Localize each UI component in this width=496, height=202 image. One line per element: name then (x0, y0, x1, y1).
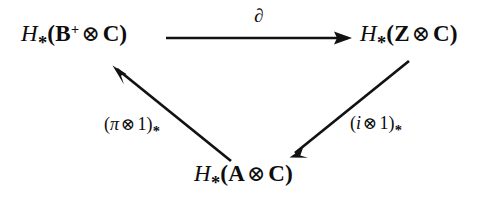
node-top-left-functor: H (21, 21, 38, 46)
node-bottom-first-factor: A (228, 161, 245, 186)
tensor-icon: ⊗ (410, 22, 434, 46)
tensor-icon: ⊗ (361, 114, 379, 133)
label-rparen: ) (146, 114, 152, 134)
node-bottom-lparen: ( (220, 160, 228, 186)
edge-label-boundary-map: ∂ (254, 6, 263, 25)
tensor-icon: ⊗ (79, 22, 103, 46)
node-top-left-lparen: ( (47, 20, 55, 46)
commutative-diagram: H*(B+⊗C) H*(Z⊗C) H*(A⊗C) ∂ (π⊗1)* (i⊗1)* (0, 0, 496, 202)
node-bottom-second-factor: C (268, 161, 285, 186)
node-top-left-rparen: ) (119, 20, 127, 46)
label-star-subscript: * (153, 123, 160, 139)
node-top-right-first-factor: Z (394, 21, 409, 46)
node-top-right-second-factor: C (433, 21, 450, 46)
node-top-right-lparen: ( (386, 20, 394, 46)
node-top-left-star-subscript: * (38, 33, 47, 53)
arrow-boundary-map (166, 32, 352, 45)
node-top-left: H*(B+⊗C) (21, 22, 127, 53)
node-bottom: H*(A⊗C) (194, 162, 293, 192)
arrow-i-tensor-1 (290, 61, 410, 158)
node-top-right-functor: H (360, 21, 377, 46)
node-top-right-star-subscript: * (377, 33, 386, 53)
edge-label-pi-tensor-1: (π⊗1)* (104, 115, 160, 138)
label-rparen: ) (388, 113, 394, 133)
edge-label-i-tensor-1: (i⊗1)* (350, 114, 402, 137)
label-star-subscript: * (395, 122, 402, 138)
node-top-right-rparen: ) (450, 20, 458, 46)
tensor-icon: ⊗ (119, 115, 137, 134)
node-bottom-functor: H (194, 161, 211, 186)
pi-symbol: π (110, 114, 119, 134)
node-bottom-rparen: ) (285, 160, 293, 186)
node-top-left-second-factor: C (103, 21, 120, 46)
node-top-left-first-factor: B (55, 21, 70, 46)
node-top-left-plus-superscript: + (71, 21, 79, 37)
arrow-pi-tensor-1 (113, 65, 232, 161)
partial-symbol: ∂ (254, 5, 263, 26)
tensor-icon: ⊗ (245, 162, 269, 186)
node-top-right: H*(Z⊗C) (360, 22, 457, 52)
node-bottom-star-subscript: * (211, 173, 220, 193)
